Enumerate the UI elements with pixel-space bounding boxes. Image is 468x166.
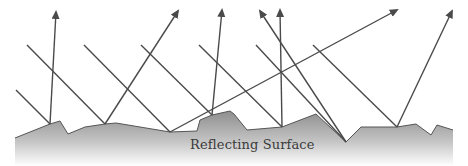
reflected-ray-arrow [212,10,222,115]
reflected-ray-arrow [170,10,397,132]
incident-ray [141,45,212,115]
reflected-ray-arrow [50,12,56,124]
reflected-ray-arrow [105,11,178,124]
reflected-ray-arrow [397,11,452,127]
incident-ray [84,45,170,132]
reflected-ray-arrow [280,10,282,127]
incident-ray [16,90,50,124]
incident-ray [313,45,397,127]
surface-label: Reflecting Surface [190,137,314,152]
